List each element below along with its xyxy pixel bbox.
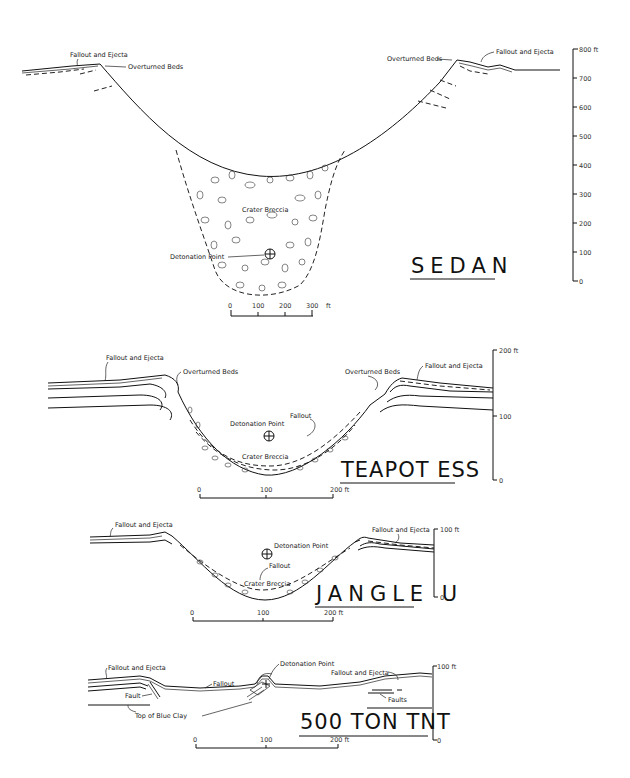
svg-text:0: 0 [499,477,503,485]
svg-text:100 ft: 100 ft [440,526,460,534]
label-fallout-ejecta-left: Fallout and Ejecta [106,354,164,362]
detonation-point-icon [262,549,272,559]
label-fallout: Fallout [269,562,291,570]
panel-title-500-ton-tnt: 500 TON TNT [300,710,451,734]
svg-text:200 ft: 200 ft [330,486,350,494]
scale-bar-sedan: 0 100 200 300 ft [228,302,331,316]
svg-text:100: 100 [499,413,511,421]
label-overturned-beds-right: Overturned Beds [345,368,401,376]
vertical-axis-teapot: 200 ft 100 0 [493,347,519,485]
scale-tick-100: 100 [252,302,264,310]
label-faults: Faults [388,696,408,704]
scale-tick-300: 300 [306,302,318,310]
scale-bar-500-ton: 0 100 200 ft [193,736,350,748]
scale-bar-jangle: 0 100 200 ft [190,609,344,621]
svg-text:200: 200 [579,220,591,228]
svg-text:100: 100 [257,609,269,617]
svg-text:700: 700 [579,75,591,83]
label-crater-breccia: Crater Breccia [244,580,290,588]
label-fallout: Fallout [213,680,235,688]
label-crater-breccia: Crater Breccia [242,453,288,461]
label-fallout-ejecta-left: Fallout and Ejecta [115,521,173,529]
detonation-point-icon [264,431,274,441]
label-fallout-ejecta-right: Fallout and Ejecta [425,362,483,370]
svg-text:500: 500 [579,133,591,141]
svg-text:200 ft: 200 ft [330,736,350,744]
scale-tick-0: 0 [228,302,232,310]
svg-text:100 ft: 100 ft [437,663,457,671]
label-fallout-ejecta-left: Fallout and Ejecta [108,664,166,672]
label-detonation-point: Detonation Point [274,542,329,550]
svg-text:600: 600 [579,104,591,112]
label-fallout-ejecta-right: Fallout and Ejecta [496,48,554,56]
panel-jangle-u: Detonation Point Fallout Crater Breccia … [90,521,463,621]
scale-tick-200: 200 [279,302,291,310]
svg-text:0: 0 [190,609,194,617]
vertical-axis-sedan: 800 ft 700 600 500 400 300 200 100 0 [573,46,599,286]
label-fallout: Fallout [290,412,312,420]
scale-bar-teapot: 0 100 200 ft [197,486,350,498]
panel-teapot-ess: Detonation Point Fallout Crater Breccia … [48,347,519,498]
svg-text:0: 0 [197,486,201,494]
label-detonation-point: Detonation Point [170,253,225,261]
svg-text:100: 100 [579,249,591,257]
svg-text:100: 100 [260,486,272,494]
svg-text:800 ft: 800 ft [579,46,599,54]
label-detonation-point: Detonation Point [230,420,285,428]
crater-cross-sections-figure: Crater Breccia Detonation Point Fallout … [0,0,630,778]
label-overturned-beds-left: Overturned Beds [183,368,239,376]
label-fallout-ejecta-left: Fallout and Ejecta [70,51,128,59]
label-overturned-beds-right: Overturned Beds [387,55,443,63]
label-fault: Fault [125,692,141,700]
svg-text:300: 300 [579,191,591,199]
panel-sedan: Crater Breccia Detonation Point Fallout … [22,46,599,316]
scale-unit: ft [326,302,331,310]
label-fallout-ejecta-right: Fallout and Ejecta [372,526,430,534]
detonation-point-icon [265,249,275,259]
svg-text:0: 0 [193,736,197,744]
svg-text:400: 400 [579,162,591,170]
label-top-of-blue-clay: Top of Blue Clay [134,712,187,720]
svg-text:200 ft: 200 ft [499,347,519,355]
svg-text:100: 100 [260,736,272,744]
breccia-rocks [197,165,328,291]
svg-text:0: 0 [440,594,444,602]
label-fallout-ejecta-right: Fallout and Ejecta [331,669,389,677]
label-crater-breccia: Crater Breccia [242,206,288,214]
svg-text:200 ft: 200 ft [324,609,344,617]
panel-500-ton-tnt: Detonation Point Fallout and Ejecta Faul… [88,660,457,748]
breccia-rocks-teapot [188,407,348,472]
panel-title-teapot-ess: TEAPOT ESS [340,458,480,482]
svg-text:0: 0 [579,278,583,286]
label-overturned-beds-left: Overturned Beds [128,63,184,71]
label-detonation-point: Detonation Point [280,660,335,668]
svg-text:0: 0 [437,737,441,745]
panel-title-sedan: SEDAN [411,254,513,278]
